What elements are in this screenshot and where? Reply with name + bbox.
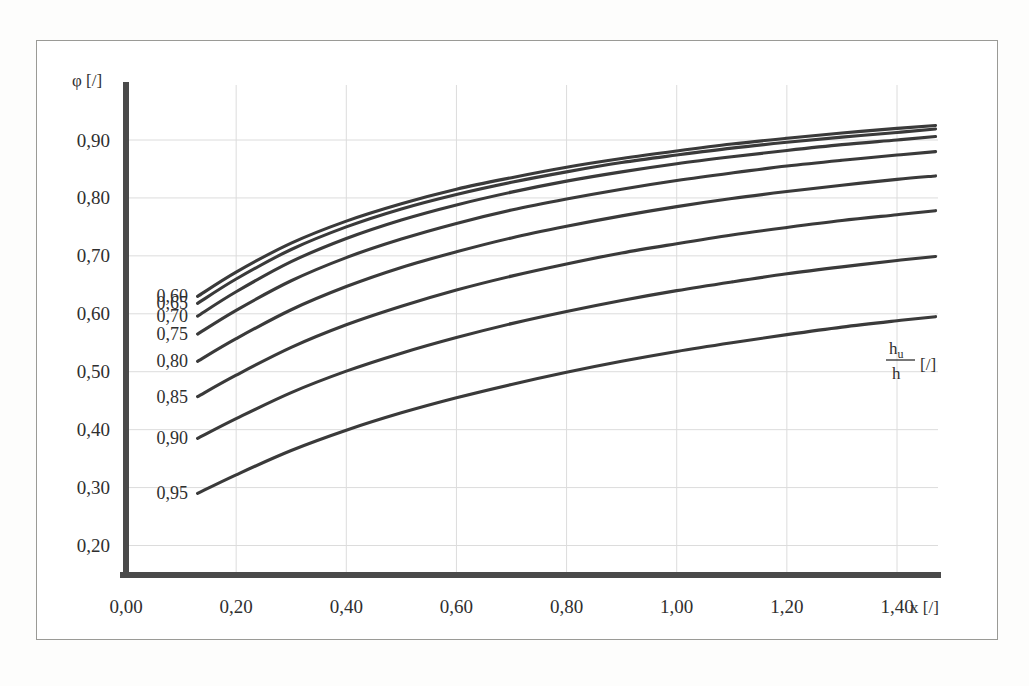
x-tick-label: 1,40 [880,596,913,617]
curve-label-0-90: 0,90 [157,428,189,448]
x-tick-label: 0,40 [330,596,363,617]
x-tick-label: 0,60 [440,596,473,617]
curve-label-0-80: 0,80 [157,351,189,371]
scanned-page: 0,200,300,400,500,600,700,800,90 0,000,2… [0,0,1029,686]
x-tick-label-group: 0,000,200,400,600,801,001,201,40 [109,596,913,617]
family-label-units: [/] [920,355,936,374]
x-axis-title: x [/] [910,598,939,617]
curve-label-0-95: 0,95 [157,483,189,503]
curve-label-group: 0,600,650,700,750,800,850,900,95 [157,286,189,503]
curve-label-0-70: 0,70 [157,306,189,326]
y-tick-label: 0,20 [77,535,110,556]
y-tick-label-group: 0,200,300,400,500,600,700,800,90 [77,130,110,557]
y-tick-label: 0,90 [77,130,110,151]
y-tick-label: 0,80 [77,187,110,208]
family-label-denominator: h [892,364,901,383]
y-axis-title: φ [/] [72,71,102,90]
vertical-gridlines [126,85,897,574]
x-tick-label: 0,20 [219,596,252,617]
y-tick-label: 0,60 [77,303,110,324]
y-tick-label: 0,40 [77,419,110,440]
horizontal-gridlines [128,140,938,546]
curve-label-0-85: 0,85 [157,387,189,407]
x-tick-label: 0,00 [109,596,142,617]
chart-canvas: 0,200,300,400,500,600,700,800,90 0,000,2… [0,0,1029,686]
x-tick-label: 0,80 [550,596,583,617]
x-tick-label: 1,00 [660,596,693,617]
x-tick-label: 1,20 [770,596,803,617]
family-label-numerator: hu [889,339,904,361]
y-tick-label: 0,30 [77,477,110,498]
y-tick-label: 0,50 [77,361,110,382]
y-tick-label: 0,70 [77,245,110,266]
curve-label-0-75: 0,75 [157,324,189,344]
curve-family-label: hu h [/] [886,339,936,383]
